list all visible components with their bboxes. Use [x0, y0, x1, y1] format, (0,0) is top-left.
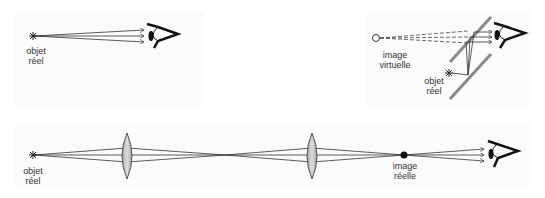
mirror-object-label: objet réel	[419, 76, 449, 96]
virtual-image-circle-icon	[373, 35, 380, 42]
lens-1-icon	[122, 133, 132, 179]
virtual-rays	[380, 31, 468, 43]
direct-object-label-line1: objet	[18, 46, 54, 56]
lens-rays	[34, 148, 484, 162]
real-image-label-line2: réelle	[387, 171, 423, 181]
real-image-label: image réelle	[387, 161, 423, 181]
direct-object-label: objet réel	[18, 46, 54, 66]
lens-system-diagram	[29, 133, 518, 179]
lens-object-label: objet réel	[18, 166, 48, 186]
direct-view-diagram	[29, 24, 178, 48]
lens-2-icon	[307, 133, 317, 179]
virtual-image-label-line1: image	[372, 50, 418, 60]
direct-object-label-line2: réel	[18, 56, 54, 66]
lens-object-label-line2: réel	[18, 176, 48, 186]
real-image-dot-icon	[401, 152, 408, 159]
optics-diagram	[0, 0, 545, 198]
lens-object-label-line1: objet	[18, 166, 48, 176]
light-rays	[34, 30, 144, 42]
real-image-label-line1: image	[387, 161, 423, 171]
virtual-image-label-line2: virtuelle	[372, 60, 418, 70]
eye-icon	[488, 141, 518, 167]
eye-icon	[147, 24, 178, 48]
mirror-object-label-line1: objet	[419, 76, 449, 86]
mirror-object-label-line2: réel	[419, 86, 449, 96]
eye-icon	[494, 23, 525, 48]
virtual-image-label: image virtuelle	[372, 50, 418, 70]
lower-mirror	[450, 54, 491, 99]
